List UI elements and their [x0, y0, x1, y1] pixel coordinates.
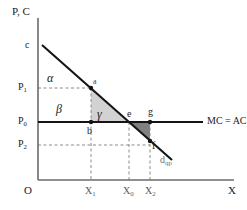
qty-tick-x1-sub: 1	[92, 190, 95, 197]
demand-curve-label: dqp	[160, 155, 172, 167]
point-g-marker	[148, 120, 152, 124]
demand-intercept-label: c	[25, 40, 29, 50]
point-b-marker	[89, 120, 93, 124]
price-tick-p0-sub: 0	[24, 120, 27, 127]
point-a-label: a	[93, 78, 97, 86]
price-tick-p1-sub: 1	[24, 86, 27, 93]
point-a-marker	[89, 86, 93, 90]
qty-tick-x2: X2	[145, 186, 156, 198]
region-beta-label: β	[56, 103, 62, 115]
qty-tick-x0-sub: 0	[130, 190, 133, 197]
demand-curve-label-sub: qp	[165, 159, 172, 166]
economics-welfare-diagram: P, C X O c P1 P0 P2 X1 X0 X2 α β γ a b e…	[0, 0, 247, 210]
point-f-label: f	[152, 141, 155, 151]
price-tick-p2-sub: 2	[24, 143, 27, 150]
y-axis-label: P, C	[12, 6, 30, 17]
price-tick-p2: P2	[18, 139, 27, 151]
qty-tick-x2-sub: 2	[152, 190, 155, 197]
point-g-label: g	[148, 107, 153, 117]
x-axis-label: X	[228, 185, 236, 196]
origin-label: O	[24, 185, 32, 196]
mc-ac-curve-label: MC = AC	[207, 116, 247, 126]
qty-tick-x0: X0	[123, 186, 134, 198]
price-tick-p0: P0	[18, 116, 27, 128]
price-tick-p1: P1	[18, 82, 27, 94]
region-gamma-label: γ	[97, 108, 102, 120]
region-alpha-label: α	[47, 72, 53, 84]
qty-tick-x1: X1	[85, 186, 96, 198]
point-e-label: e	[127, 109, 131, 119]
diagram-canvas	[0, 0, 247, 210]
point-b-label: b	[87, 126, 92, 136]
